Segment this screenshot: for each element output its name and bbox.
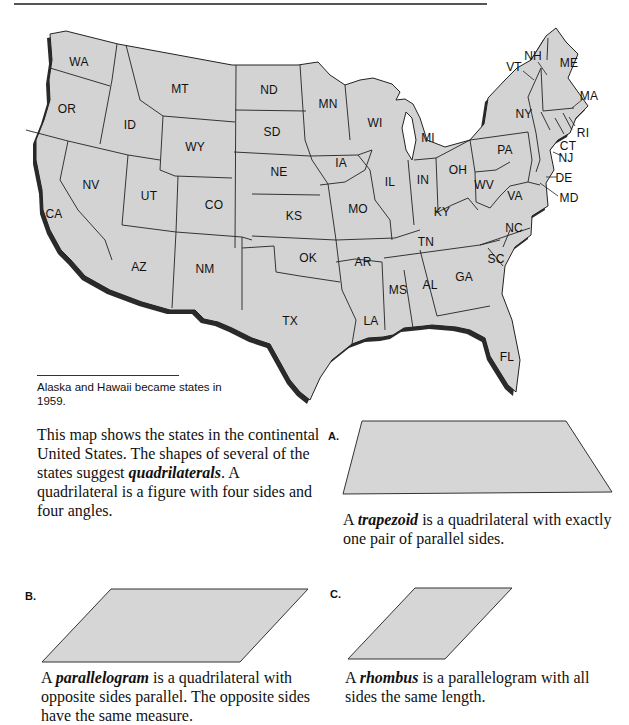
map-caption: Alaska and Hawaii became states in 1959. <box>37 380 227 408</box>
trapezoid-shape <box>340 418 625 508</box>
state-label-ga: GA <box>455 270 473 284</box>
term-quadrilaterals: quadrilaterals <box>129 464 221 481</box>
state-label-vt: VT <box>506 60 522 74</box>
state-label-nj: NJ <box>558 151 573 165</box>
state-label-al: AL <box>422 278 437 292</box>
state-label-oh: OH <box>449 163 467 177</box>
term-rhombus: rhombus <box>360 669 419 686</box>
caption-rule <box>37 375 179 376</box>
state-label-ny: NY <box>515 107 532 121</box>
state-label-sd: SD <box>263 125 280 139</box>
state-label-sc: SC <box>487 252 504 266</box>
state-label-in: IN <box>417 173 429 187</box>
state-label-ks: KS <box>286 209 302 223</box>
figure-a-label: A. <box>328 430 339 442</box>
state-label-id: ID <box>124 118 136 132</box>
state-label-tx: TX <box>282 314 298 328</box>
state-label-tn: TN <box>418 235 434 249</box>
state-label-wv: WV <box>474 178 494 192</box>
state-label-de: DE <box>555 171 572 185</box>
state-label-me: ME <box>560 56 578 70</box>
state-label-or: OR <box>58 102 76 116</box>
state-label-ri: RI <box>577 126 589 140</box>
rhombus-description: A rhombus is a parallelogram with all si… <box>345 668 615 706</box>
state-label-ia: IA <box>335 156 347 170</box>
state-label-md: MD <box>559 191 578 205</box>
state-label-wy: WY <box>185 140 205 154</box>
state-label-mt: MT <box>171 82 189 96</box>
state-label-nh: NH <box>524 49 542 63</box>
intro-paragraph: This map shows the states in the contine… <box>37 425 322 520</box>
state-label-ky: KY <box>434 205 450 219</box>
state-label-ca: CA <box>45 207 62 221</box>
state-label-va: VA <box>507 189 523 203</box>
state-label-nc: NC <box>505 221 523 235</box>
state-label-ne: NE <box>270 165 287 179</box>
state-label-mo: MO <box>348 202 368 216</box>
state-label-ut: UT <box>141 189 157 203</box>
state-label-wa: WA <box>69 55 88 69</box>
term-trapezoid: trapezoid <box>358 511 418 528</box>
state-label-la: LA <box>363 314 378 328</box>
state-label-ms: MS <box>389 283 407 297</box>
rhombus-shape <box>345 585 520 665</box>
state-label-wi: WI <box>367 116 382 130</box>
state-label-fl: FL <box>500 350 514 364</box>
state-label-mn: MN <box>318 97 337 111</box>
state-label-ar: AR <box>354 255 371 269</box>
state-label-co: CO <box>205 198 223 212</box>
state-label-nm: NM <box>195 262 214 276</box>
state-label-az: AZ <box>131 260 147 274</box>
state-label-ma: MA <box>580 89 598 103</box>
term-parallelogram: parallelogram <box>56 669 149 686</box>
parallelogram-shape <box>38 586 313 666</box>
state-label-pa: PA <box>497 143 513 157</box>
figure-c-label: C. <box>330 588 341 600</box>
state-label-mi: MI <box>421 131 435 145</box>
state-label-nd: ND <box>260 83 278 97</box>
state-label-nv: NV <box>82 178 99 192</box>
parallelogram-description: A parallelogram is a quadrilateral with … <box>41 668 331 725</box>
state-label-il: IL <box>385 175 395 189</box>
state-label-ok: OK <box>299 251 317 265</box>
trapezoid-description: A trapezoid is a quadrilateral with exac… <box>343 510 613 548</box>
us-map: WAORCAIDNVMTWYUTCOAZNMNDSDNEKSOKTXMNIAMO… <box>0 0 629 410</box>
figure-b-label: B. <box>25 590 36 602</box>
